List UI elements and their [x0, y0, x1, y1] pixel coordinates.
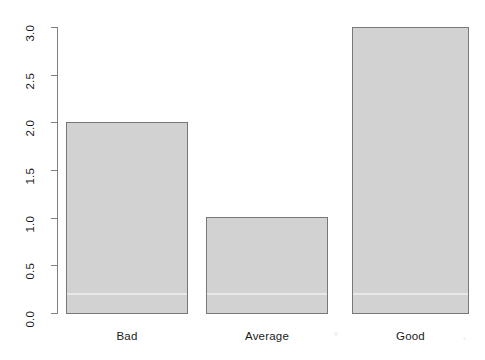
- y-axis-tick-label-text: 3.0: [24, 25, 36, 42]
- y-axis-tick: [51, 75, 57, 76]
- bar-good: [352, 27, 469, 314]
- bar-average: [206, 217, 328, 314]
- y-axis-tick: [51, 27, 57, 28]
- y-axis-tick-label-text: 2.5: [24, 73, 36, 90]
- y-axis-tick: [51, 122, 57, 123]
- y-axis-tick: [51, 170, 57, 171]
- y-axis-tick-label-text: 1.0: [24, 216, 36, 233]
- scan-artifact-line: [67, 293, 187, 295]
- bar-chart-plot: 0.0 0.5 1.0 1.5 2.0 2.5 3.0: [0, 0, 485, 360]
- y-axis-tick: [51, 313, 57, 314]
- scan-speckle: [334, 332, 338, 336]
- scan-artifact-line: [207, 293, 327, 295]
- x-axis-label-good: Good: [352, 330, 469, 342]
- y-axis-tick-label-text: 1.5: [24, 168, 36, 185]
- y-axis-tick: [51, 218, 57, 219]
- scan-artifact-line: [353, 293, 468, 295]
- bar-bad: [66, 122, 188, 314]
- x-axis-label-average: Average: [206, 330, 328, 342]
- y-axis-tick-label-text: 0.0: [24, 311, 36, 328]
- y-axis-tick: [51, 265, 57, 266]
- y-axis-line: [57, 27, 58, 314]
- y-axis-tick-label-text: 0.5: [24, 263, 36, 280]
- y-axis-tick-label-text: 2.0: [24, 120, 36, 137]
- x-axis-label-bad: Bad: [66, 330, 188, 342]
